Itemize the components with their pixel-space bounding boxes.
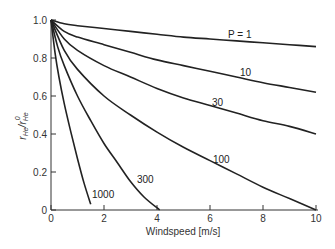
y-tick-label: 0.2	[33, 167, 47, 178]
chart: 00.20.40.60.81.0 0246810 P = 1 10 30 100…	[0, 0, 335, 249]
curve-line	[51, 20, 316, 47]
y-tick-label: 0.4	[33, 129, 47, 140]
curve-line	[51, 20, 316, 92]
x-axis-title: Windspeed [m/s]	[146, 226, 221, 237]
curve-label-30: 30	[212, 97, 224, 108]
curve-line	[51, 20, 91, 204]
y-tick-label: 0	[41, 205, 47, 216]
x-tick-label: 10	[310, 213, 322, 224]
y-tick-label: 0.6	[33, 91, 47, 102]
curve-label-300: 300	[137, 174, 154, 185]
y-tick-label: 0.8	[33, 53, 47, 64]
x-tick-label: 8	[260, 213, 266, 224]
y-ticks: 00.20.40.60.81.0	[33, 15, 56, 216]
svg-text:rHe/rHe0: rHe/rHe0	[14, 112, 29, 139]
curves	[51, 20, 316, 210]
curve-line	[51, 20, 316, 210]
x-tick-label: 0	[48, 213, 54, 224]
curve-labels: P = 1 10 30 100 300 1000	[92, 29, 252, 200]
x-ticks: 0246810	[48, 205, 322, 224]
x-tick-label: 2	[101, 213, 107, 224]
y-axis-title: rHe/rHe0	[14, 112, 29, 139]
curve-label-1000: 1000	[92, 189, 115, 200]
curve-label-p1: P = 1	[228, 29, 252, 40]
curve-label-100: 100	[213, 154, 230, 165]
y-tick-label: 1.0	[33, 15, 47, 26]
curve-label-10: 10	[240, 67, 252, 78]
x-tick-label: 6	[207, 213, 213, 224]
x-tick-label: 4	[154, 213, 160, 224]
